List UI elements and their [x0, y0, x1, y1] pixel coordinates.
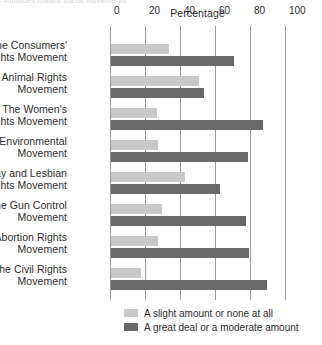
- x-tick-label-60: 60: [219, 5, 230, 16]
- bar-great-deal: [111, 280, 267, 290]
- category-label: The Gay and LesbianRights Movement: [0, 168, 67, 191]
- bar-slight-amount: [111, 76, 199, 86]
- legend-item: A slight amount or none at all: [124, 306, 314, 320]
- x-tick-label-0: 0: [114, 5, 120, 16]
- legend-label: A slight amount or none at all: [144, 308, 273, 319]
- category-label: The Consumers'Rights Movement: [0, 40, 67, 63]
- legend-item: A great deal or a moderate amount: [124, 320, 314, 334]
- chart-row: The Gay and LesbianRights Movement: [110, 168, 285, 200]
- category-label: The Gun ControlMovement: [0, 200, 67, 223]
- bar-great-deal: [111, 184, 220, 194]
- category-label: The Abortion RightsMovement: [0, 232, 67, 255]
- bar-slight-amount: [111, 108, 157, 118]
- bar-great-deal: [111, 152, 248, 162]
- chart-row: The Women'sRights Movement: [110, 104, 285, 136]
- legend-label: A great deal or a moderate amount: [144, 322, 299, 333]
- bar-slight-amount: [111, 172, 185, 182]
- chart-row: The Abortion RightsMovement: [110, 232, 285, 264]
- chart-row: The Consumers'Rights Movement: [110, 40, 285, 72]
- bar-slight-amount: [111, 204, 162, 214]
- bar-great-deal: [111, 56, 234, 66]
- x-tick-label-80: 80: [254, 5, 265, 16]
- chart-row: The Gun ControlMovement: [110, 200, 285, 232]
- chart-legend: A slight amount or none at allA great de…: [124, 306, 314, 334]
- category-label: The EnvironmentalMovement: [0, 136, 67, 159]
- x-tick-label-20: 20: [149, 5, 160, 16]
- bar-great-deal: [111, 216, 246, 226]
- legend-swatch: [124, 323, 138, 331]
- bar-great-deal: [111, 120, 263, 130]
- x-tick-label-40: 40: [184, 5, 195, 16]
- gridline-100: [285, 26, 286, 300]
- category-label: The Women'sRights Movement: [0, 104, 67, 127]
- chart-row: The Civil RightsMovement: [110, 264, 285, 296]
- bar-slight-amount: [111, 44, 169, 54]
- bar-great-deal: [111, 248, 249, 258]
- chart-row: The EnvironmentalMovement: [110, 136, 285, 168]
- bar-slight-amount: [111, 268, 141, 278]
- plot-area: 020406080100The Consumers'Rights Movemen…: [110, 26, 285, 300]
- chart-row: The Animal RightsMovement: [110, 72, 285, 104]
- x-tick-label-100: 100: [289, 5, 306, 16]
- bar-chart: Percentage 020406080100The Consumers'Rig…: [0, 0, 322, 345]
- legend-swatch: [124, 309, 138, 317]
- bar-slight-amount: [111, 140, 158, 150]
- bar-slight-amount: [111, 236, 158, 246]
- category-label: The Animal RightsMovement: [0, 72, 67, 95]
- category-label: The Civil RightsMovement: [0, 264, 67, 287]
- bar-great-deal: [111, 88, 204, 98]
